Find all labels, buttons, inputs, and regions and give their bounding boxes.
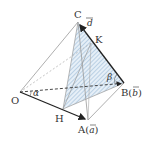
label-d-vector: d [87,18,93,28]
label-beta: β [106,72,112,82]
label-b: B(b) [121,87,142,98]
label-h: H [55,113,64,124]
label-alpha: α [33,88,39,98]
label-k: K [95,34,103,45]
label-o: O [11,95,19,106]
angle-alpha-arc [30,91,31,96]
tetrahedron-diagram: C d K O α β H B(b) A(a) [0,0,157,143]
label-c: C [74,9,82,20]
label-a: A(a) [77,124,99,135]
